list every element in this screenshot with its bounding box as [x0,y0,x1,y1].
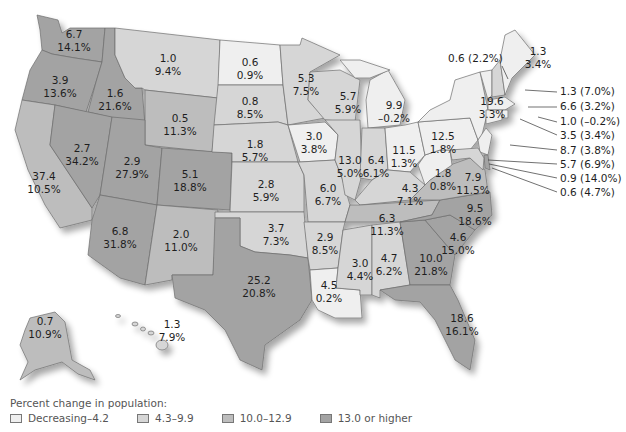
svg-text:1.3: 1.3 [530,45,547,57]
legend-swatch [10,414,22,423]
svg-text:9.5: 9.5 [467,202,484,214]
svg-text:9.9: 9.9 [386,99,403,111]
svg-text:1.8: 1.8 [435,167,452,179]
svg-text:4.5: 4.5 [321,279,338,291]
svg-text:1.6: 1.6 [107,87,124,99]
svg-text:37.4: 37.4 [32,170,56,182]
legend-swatch [137,414,149,423]
svg-text:7.1%: 7.1% [397,195,424,207]
svg-text:4.7: 4.7 [381,252,398,264]
legend: Percent change in population: Decreasing… [10,397,440,424]
svg-text:7.9: 7.9 [465,171,482,183]
svg-text:1.3%: 1.3% [391,157,418,169]
svg-text:3.8%: 3.8% [301,143,328,155]
svg-text:11.3%: 11.3% [370,225,403,237]
svg-text:5.7: 5.7 [340,90,357,102]
svg-text:1.8%: 1.8% [430,143,457,155]
svg-text:6.8: 6.8 [112,225,129,237]
svg-text:9.4%: 9.4% [155,65,182,77]
svg-text:12.5: 12.5 [431,130,454,142]
svg-text:34.2%: 34.2% [65,155,98,167]
svg-text:27.9%: 27.9% [115,168,148,180]
svg-text:–0.2%: –0.2% [378,112,410,124]
svg-text:21.8%: 21.8% [414,265,447,277]
svg-text:2.7: 2.7 [74,142,91,154]
svg-text:0.7: 0.7 [37,315,54,327]
svg-text:3.3%: 3.3% [479,108,506,120]
state-ak[interactable] [20,312,95,380]
svg-text:8.7 (3.8%): 8.7 (3.8%) [560,144,615,156]
svg-text:0.5: 0.5 [172,112,189,124]
svg-text:6.1%: 6.1% [363,167,390,179]
svg-text:4.3: 4.3 [402,182,419,194]
svg-text:19.6: 19.6 [480,95,504,107]
svg-text:11.5%: 11.5% [456,184,489,196]
svg-text:0.8%: 0.8% [430,180,457,192]
svg-text:4.4%: 4.4% [347,270,374,282]
svg-text:6.7%: 6.7% [315,195,342,207]
svg-text:18.6%: 18.6% [458,215,491,227]
svg-text:6.0: 6.0 [320,182,337,194]
svg-text:6.6 (3.2%): 6.6 (3.2%) [560,100,615,112]
svg-text:11.0%: 11.0% [164,241,197,253]
svg-text:1.3: 1.3 [164,318,181,330]
svg-text:31.8%: 31.8% [103,238,136,250]
svg-text:5.7%: 5.7% [242,151,269,163]
svg-text:0.6 (2.2%): 0.6 (2.2%) [448,52,503,64]
svg-text:11.5: 11.5 [392,144,415,156]
svg-text:18.8%: 18.8% [173,181,206,193]
svg-text:20.8%: 20.8% [242,287,275,299]
svg-text:18.6: 18.6 [450,312,474,324]
svg-text:25.2: 25.2 [247,274,270,286]
svg-text:0.8: 0.8 [242,95,259,107]
legend-item-10-12: 10.0–12.9 [222,412,292,424]
svg-text:1.8: 1.8 [247,138,264,150]
svg-text:13.0: 13.0 [338,154,361,166]
svg-text:5.1: 5.1 [182,168,199,180]
svg-text:0.2%: 0.2% [316,292,343,304]
svg-text:3.9: 3.9 [52,74,69,86]
svg-text:5.7 (6.9%): 5.7 (6.9%) [560,158,615,170]
svg-text:6.3: 6.3 [379,212,396,224]
svg-text:7.9%: 7.9% [159,331,186,343]
svg-text:5.9%: 5.9% [335,103,362,115]
svg-text:16.1%: 16.1% [445,325,478,337]
legend-swatch [222,414,234,423]
svg-text:13.6%: 13.6% [43,87,76,99]
legend-item-13-plus: 13.0 or higher [320,412,412,424]
svg-text:10.0: 10.0 [419,252,442,264]
legend-title: Percent change in population: [10,397,440,409]
svg-text:2.0: 2.0 [173,228,190,240]
svg-text:3.7: 3.7 [268,222,285,234]
legend-item-4-9: 4.3–9.9 [137,412,194,424]
svg-text:11.3%: 11.3% [163,125,196,137]
svg-text:8.5%: 8.5% [312,244,339,256]
state-de[interactable] [484,155,490,170]
svg-text:6.7: 6.7 [66,28,83,40]
svg-text:6.4: 6.4 [368,154,385,166]
svg-text:0.9 (14.0%): 0.9 (14.0%) [560,172,622,184]
svg-text:8.5%: 8.5% [237,108,264,120]
svg-text:5.0%: 5.0% [337,167,364,179]
svg-text:3.5 (3.4%): 3.5 (3.4%) [560,129,615,141]
svg-text:3.0: 3.0 [306,130,323,142]
svg-text:0.9%: 0.9% [237,69,264,81]
svg-text:1.0: 1.0 [160,52,177,64]
svg-text:5.3: 5.3 [298,72,315,84]
svg-text:0.6 (4.7%): 0.6 (4.7%) [560,186,615,198]
svg-text:7.5%: 7.5% [293,85,320,97]
svg-text:15.0%: 15.0% [441,244,474,256]
svg-text:5.9%: 5.9% [253,191,280,203]
svg-text:4.6: 4.6 [450,231,467,243]
us-population-map: 6.7 14.1% 3.9 13.6% 1.6 21.6% 1.0 9.4% 0… [0,0,626,395]
svg-text:2.8: 2.8 [258,178,275,190]
svg-text:1.0 (–0.2%): 1.0 (–0.2%) [560,115,620,127]
legend-swatch [320,414,332,423]
svg-text:6.2%: 6.2% [376,265,403,277]
svg-text:3.0: 3.0 [352,257,369,269]
svg-text:2.9: 2.9 [317,231,334,243]
svg-text:10.5%: 10.5% [27,183,60,195]
svg-text:1.3 (7.0%): 1.3 (7.0%) [560,85,615,97]
svg-text:10.9%: 10.9% [28,328,61,340]
svg-text:0.6: 0.6 [242,56,259,68]
